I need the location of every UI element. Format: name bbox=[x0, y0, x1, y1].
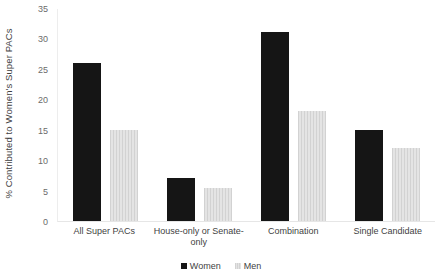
bar-pair bbox=[261, 9, 326, 221]
legend-item[interactable]: Men bbox=[235, 261, 262, 271]
bar-group bbox=[247, 9, 341, 221]
bar-men[interactable] bbox=[298, 111, 326, 221]
y-axis-tick-label: 15 bbox=[38, 126, 48, 136]
x-axis-label: House-only or Senate-only bbox=[152, 226, 247, 260]
bar-pair bbox=[167, 9, 232, 221]
y-axis-tick-label: 0 bbox=[43, 217, 48, 227]
bar-groups bbox=[58, 9, 435, 221]
y-axis-tick-label: 30 bbox=[38, 34, 48, 44]
bar-women[interactable] bbox=[261, 32, 289, 221]
bar-pair bbox=[355, 9, 420, 221]
y-axis-ticks: 05101520253035 bbox=[18, 0, 52, 279]
y-axis-title: % Contributed to Women's Super PACs bbox=[0, 0, 16, 226]
legend-label: Men bbox=[244, 261, 262, 271]
y-axis-tick-label: 25 bbox=[38, 65, 48, 75]
chart-legend: WomenMen bbox=[0, 261, 442, 271]
bar-group bbox=[152, 9, 246, 221]
x-axis-label: All Super PACs bbox=[57, 226, 152, 260]
x-axis-labels: All Super PACsHouse-only or Senate-onlyC… bbox=[57, 226, 435, 260]
y-axis-title-text: % Contributed to Women's Super PACs bbox=[3, 28, 14, 198]
y-axis-tick-label: 5 bbox=[43, 187, 48, 197]
bar-men[interactable] bbox=[392, 148, 420, 221]
bar-group bbox=[58, 9, 152, 221]
x-axis-label: Combination bbox=[246, 226, 341, 260]
bar-women[interactable] bbox=[73, 63, 101, 221]
bar-group bbox=[341, 9, 435, 221]
bar-men[interactable] bbox=[204, 188, 232, 221]
y-axis-tick-label: 10 bbox=[38, 156, 48, 166]
legend-swatch-women bbox=[181, 263, 187, 269]
legend-label: Women bbox=[190, 261, 221, 271]
bar-women[interactable] bbox=[167, 178, 195, 221]
bar-chart: % Contributed to Women's Super PACs 0510… bbox=[0, 0, 442, 279]
bar-women[interactable] bbox=[355, 130, 383, 221]
legend-swatch-men bbox=[235, 263, 241, 269]
legend-item[interactable]: Women bbox=[181, 261, 221, 271]
y-axis-tick-label: 20 bbox=[38, 95, 48, 105]
plot-area bbox=[57, 9, 435, 222]
x-axis-label: Single Candidate bbox=[341, 226, 436, 260]
bar-pair bbox=[73, 9, 138, 221]
bar-men[interactable] bbox=[110, 130, 138, 221]
y-axis-tick-label: 35 bbox=[38, 4, 48, 14]
